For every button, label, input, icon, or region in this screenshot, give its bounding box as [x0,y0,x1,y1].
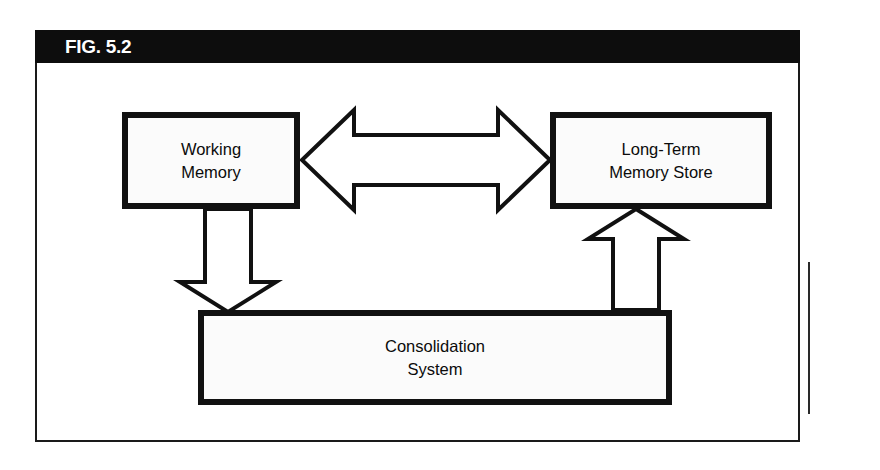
node-working-memory: Working Memory [122,112,300,209]
node-working-memory-label: Working Memory [181,138,241,183]
arrow-working-memory-to-long-term-bidirectional [302,110,550,210]
node-consolidation-system-label: Consolidation System [385,335,485,380]
figure-header-bar: FIG. 5.2 [35,30,800,63]
arrow-consolidation-to-long-term-up [588,209,684,310]
page-margin-rule [808,262,810,414]
figure-container: FIG. 5.2 Working Memory Long-Term Memory… [0,0,880,470]
node-long-term-memory-store: Long-Term Memory Store [550,112,772,209]
node-long-term-memory-store-label: Long-Term Memory Store [609,138,713,183]
diagram-canvas: Working Memory Long-Term Memory Store Co… [35,63,800,442]
arrow-working-memory-to-consolidation-down [180,209,276,312]
figure-label: FIG. 5.2 [65,36,131,58]
node-consolidation-system: Consolidation System [198,310,672,405]
